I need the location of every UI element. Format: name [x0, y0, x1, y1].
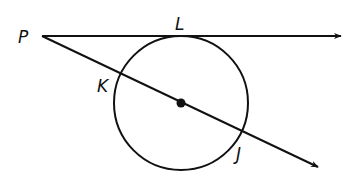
label-l: L — [175, 14, 184, 34]
label-p: P — [18, 27, 29, 47]
geometry-diagram: P L K J — [0, 0, 353, 184]
label-j: J — [233, 144, 241, 164]
label-k: K — [97, 76, 110, 96]
center-point — [177, 99, 186, 108]
